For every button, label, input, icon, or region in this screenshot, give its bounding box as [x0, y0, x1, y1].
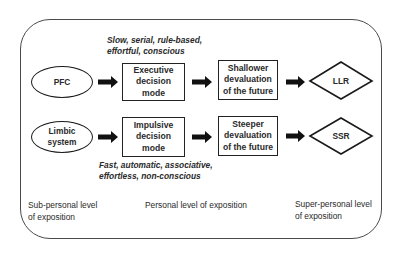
box-line: Steeper [223, 119, 273, 131]
steeper-devaluation-box: Steeper devaluation of the future [218, 116, 278, 156]
box-line: decision [133, 76, 173, 88]
arrow-icon [192, 76, 212, 88]
limbic-system-node: Limbic system [31, 121, 93, 153]
arrow-icon [286, 130, 305, 142]
level-line: Sub-personal level [28, 200, 97, 212]
node-label: Limbic [48, 126, 77, 137]
box-line: decision [134, 131, 174, 143]
ssr-label: SSR [326, 131, 356, 141]
box-line: devaluation [223, 74, 273, 86]
arrow-icon [286, 76, 305, 88]
node-label: system [48, 137, 77, 148]
level-line: of exposition [28, 212, 97, 224]
pfc-node: PFC [31, 66, 93, 98]
level-line: of exposition [295, 211, 372, 223]
node-label: PFC [54, 77, 71, 88]
executive-decision-mode-box: Executive decision mode [122, 63, 185, 101]
box-line: Impulsive [134, 120, 174, 132]
llr-label: LLR [326, 76, 356, 86]
box-line: of the future [223, 86, 273, 98]
shallower-devaluation-box: Shallower devaluation of the future [218, 60, 278, 100]
arrow-icon [98, 131, 118, 143]
box-line: Executive [133, 65, 173, 77]
annotation-line: Fast, automatic, associative, [99, 160, 213, 171]
executive-annotation: Slow, serial, rule-based, effortful, con… [107, 35, 202, 57]
personal-level-label: Personal level of exposition [145, 200, 247, 212]
level-line: Super-personal level [295, 199, 372, 211]
annotation-line: effortless, non-conscious [99, 171, 213, 182]
super-personal-level-label: Super-personal level of exposition [295, 199, 372, 222]
sub-personal-level-label: Sub-personal level of exposition [28, 200, 97, 223]
box-line: devaluation [223, 130, 273, 142]
box-line: mode [133, 88, 173, 100]
impulsive-annotation: Fast, automatic, associative, effortless… [99, 160, 213, 182]
level-line: Personal level of exposition [145, 200, 247, 212]
annotation-line: Slow, serial, rule-based, [107, 35, 202, 46]
arrow-icon [192, 131, 212, 143]
impulsive-decision-mode-box: Impulsive decision mode [122, 117, 185, 157]
box-line: Shallower [223, 63, 273, 75]
arrow-icon [98, 76, 118, 88]
annotation-line: effortful, conscious [107, 46, 202, 57]
box-line: of the future [223, 142, 273, 154]
box-line: mode [134, 143, 174, 155]
